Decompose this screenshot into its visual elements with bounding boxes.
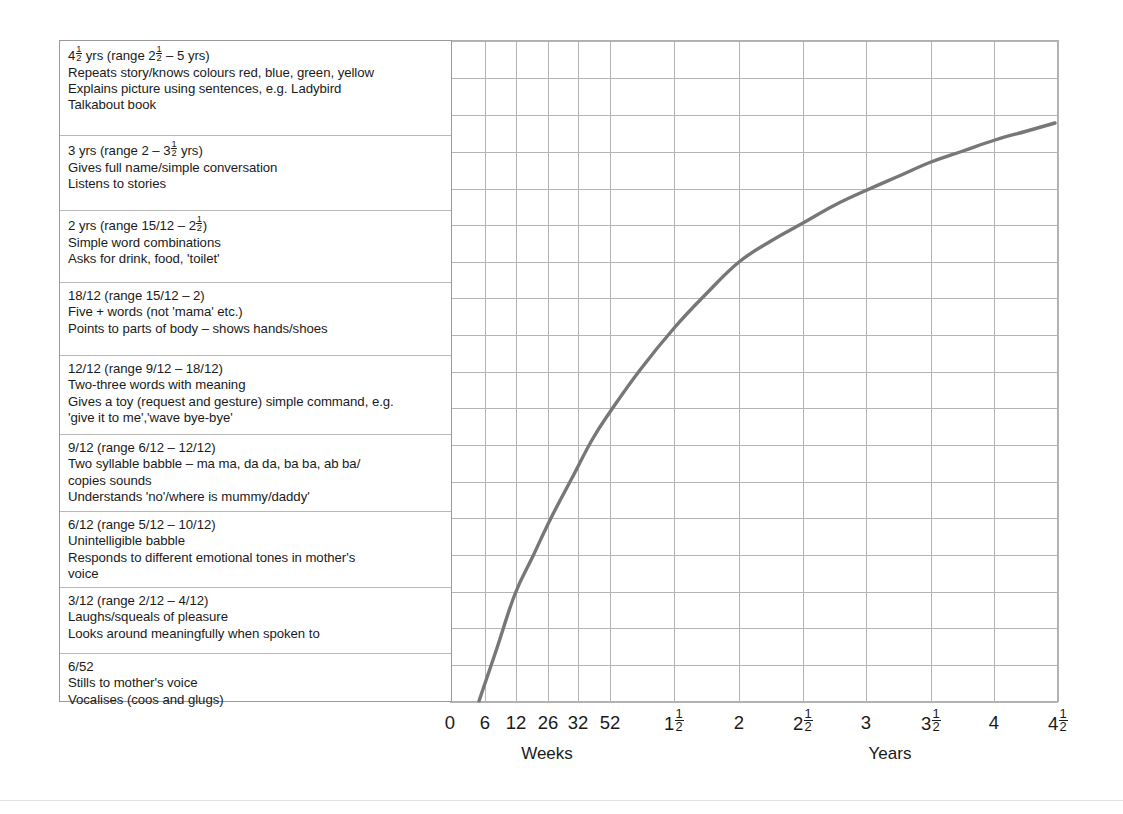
- milestone-detail-line: copies sounds: [68, 473, 444, 489]
- x-tick-2½: 212: [793, 710, 813, 737]
- x-axis-label-years: Years: [869, 742, 912, 766]
- milestone-row-18-months: 18/12 (range 15/12 – 2)Five + words (not…: [60, 283, 451, 356]
- milestone-panel: 412 yrs (range 212 – 5 yrs)Repeats story…: [59, 40, 452, 702]
- milestone-detail-line: Points to parts of body – shows hands/sh…: [68, 321, 444, 337]
- milestone-detail-line: Simple word combinations: [68, 235, 444, 251]
- vertical-gridline-4½: [1058, 40, 1059, 702]
- page-bottom-rule: [0, 800, 1123, 801]
- chart-plot-area: [450, 40, 1058, 702]
- milestone-row-9-months: 9/12 (range 6/12 – 12/12)Two syllable ba…: [60, 435, 451, 512]
- milestone-age-label: 18/12 (range 15/12 – 2): [68, 288, 444, 304]
- language-milestone-chart-page: 412 yrs (range 212 – 5 yrs)Repeats story…: [0, 0, 1123, 814]
- milestone-detail-line: Unintelligible babble: [68, 533, 444, 549]
- milestone-detail-line: Five + words (not 'mama' etc.): [68, 304, 444, 320]
- x-tick-12: 12: [506, 710, 527, 736]
- milestone-detail-line: Repeats story/knows colours red, blue, g…: [68, 65, 444, 81]
- development-curve: [450, 40, 1058, 702]
- milestone-detail-line: 'give it to me','wave bye-bye': [68, 410, 444, 426]
- milestone-age-label: 412 yrs (range 212 – 5 yrs): [68, 46, 444, 65]
- milestone-detail-line: Responds to different emotional tones in…: [68, 550, 444, 566]
- x-tick-3: 3: [861, 710, 871, 736]
- x-axis-label-weeks: Weeks: [521, 742, 573, 766]
- x-tick-4: 4: [989, 710, 999, 736]
- milestone-row-4-and-half-years: 412 yrs (range 212 – 5 yrs)Repeats story…: [60, 41, 451, 136]
- milestone-detail-line: Stills to mother's voice: [68, 675, 444, 691]
- milestone-age-label: 2 yrs (range 15/12 – 212): [68, 216, 444, 235]
- x-tick-52: 52: [600, 710, 621, 736]
- milestone-detail-line: Two-three words with meaning: [68, 377, 444, 393]
- milestone-detail-line: Talkabout book: [68, 97, 444, 113]
- milestone-detail-line: Understands 'no'/where is mummy/daddy': [68, 489, 444, 505]
- x-tick-6: 6: [480, 710, 490, 736]
- milestone-row-3-years: 3 yrs (range 2 – 312 yrs)Gives full name…: [60, 136, 451, 211]
- x-tick-32: 32: [568, 710, 589, 736]
- milestone-row-3-months: 3/12 (range 2/12 – 4/12)Laughs/squeals o…: [60, 588, 451, 654]
- milestone-row-6-months: 6/12 (range 5/12 – 10/12)Unintelligible …: [60, 512, 451, 588]
- milestone-row-2-years: 2 yrs (range 15/12 – 212)Simple word com…: [60, 211, 451, 283]
- milestone-age-label: 6/52: [68, 659, 444, 675]
- milestone-age-label: 6/12 (range 5/12 – 10/12): [68, 517, 444, 533]
- x-tick-26: 26: [538, 710, 559, 736]
- curve-path: [479, 123, 1055, 701]
- milestone-detail-line: Listens to stories: [68, 176, 444, 192]
- milestone-age-label: 9/12 (range 6/12 – 12/12): [68, 440, 444, 456]
- milestone-age-label: 3/12 (range 2/12 – 4/12): [68, 593, 444, 609]
- milestone-detail-line: Laughs/squeals of pleasure: [68, 609, 444, 625]
- milestone-detail-line: Gives a toy (request and gesture) simple…: [68, 394, 444, 410]
- horizontal-gridline-18: [450, 702, 1058, 703]
- x-tick-1½: 112: [664, 710, 684, 737]
- milestone-detail-line: Gives full name/simple conversation: [68, 160, 444, 176]
- milestone-detail-line: voice: [68, 566, 444, 582]
- milestone-row-6-weeks: 6/52Stills to mother's voiceVocalises (c…: [60, 654, 451, 730]
- milestone-detail-line: Explains picture using sentences, e.g. L…: [68, 81, 444, 97]
- milestone-age-label: 3 yrs (range 2 – 312 yrs): [68, 141, 444, 160]
- milestone-age-label: 12/12 (range 9/12 – 18/12): [68, 361, 444, 377]
- milestone-detail-line: Vocalises (coos and glugs): [68, 692, 444, 708]
- milestone-detail-line: Asks for drink, food, 'toilet': [68, 251, 444, 267]
- milestone-detail-line: Looks around meaningfully when spoken to: [68, 626, 444, 642]
- x-tick-3½: 312: [921, 710, 941, 737]
- x-tick-2: 2: [734, 710, 744, 736]
- x-tick-4½: 412: [1048, 710, 1068, 737]
- milestone-detail-line: Two syllable babble – ma ma, da da, ba b…: [68, 456, 444, 472]
- milestone-row-12-months: 12/12 (range 9/12 – 18/12)Two-three word…: [60, 356, 451, 435]
